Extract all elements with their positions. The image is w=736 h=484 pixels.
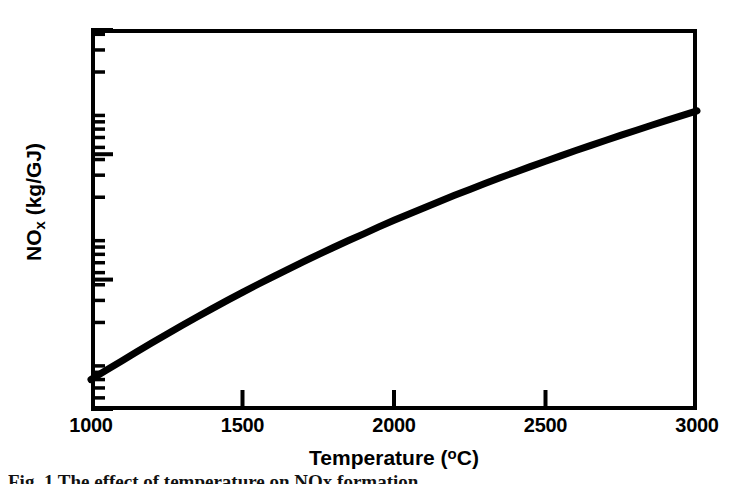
x-axis-tick-label: 1000	[69, 414, 112, 437]
figure-container: 0.040.444.4144.1 10001500200025003000 Te…	[0, 0, 736, 484]
x-axis-major-ticks	[243, 390, 546, 410]
x-axis-title: Temperature (oC)	[91, 445, 697, 470]
x-axis-tick-label: 1500	[221, 414, 264, 437]
y-axis-minor-ticks	[91, 34, 105, 398]
x-axis-tick-label: 2000	[372, 414, 415, 437]
y-axis-title-tail: (kg/GJ)	[22, 143, 45, 221]
y-axis-title-main: NO	[22, 230, 45, 262]
plot-canvas	[91, 29, 697, 410]
y-axis-major-ticks	[91, 30, 113, 409]
x-axis-tick-label: 3000	[675, 414, 718, 437]
y-axis-title: NOx (kg/GJ)	[22, 52, 48, 352]
x-axis-title-main: Temperature (	[309, 446, 447, 469]
y-axis-title-subscript: x	[31, 221, 48, 229]
x-axis-tick-label: 2500	[524, 414, 567, 437]
degree-sign-icon: o	[448, 445, 457, 462]
x-axis-tick-label-group: 10001500200025003000	[0, 414, 736, 444]
figure-caption: Fig. 1 The effect of temperature on NOx …	[8, 471, 608, 484]
x-axis-title-tail: C)	[457, 446, 479, 469]
data-series-line-nox	[91, 111, 697, 380]
